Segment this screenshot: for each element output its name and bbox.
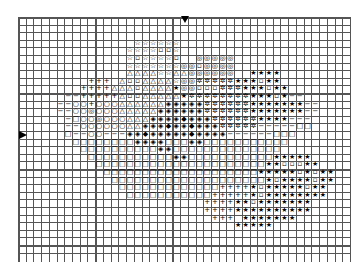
grid-line-horizontal [18, 253, 350, 254]
stitch-cell: □ [134, 192, 142, 200]
stitch-cell: ★ [296, 207, 304, 215]
grid-line-horizontal [18, 40, 350, 41]
stitch-cell: □ [296, 123, 304, 131]
stitch-cell: □ [64, 131, 72, 139]
stitch-cell: □ [196, 192, 204, 200]
grid-line-horizontal [18, 237, 350, 238]
stitch-cell: □ [188, 192, 196, 200]
stitch-cell: □ [304, 123, 312, 131]
grid-line-horizontal [18, 25, 350, 26]
stitch-cell: □ [103, 169, 111, 177]
stitch-cell: □ [142, 192, 150, 200]
stitch-cell: + [203, 207, 211, 215]
stitch-cell: ★ [265, 222, 273, 230]
stitch-cell: ★ [234, 207, 242, 215]
center-column-marker-icon [181, 16, 189, 23]
stitch-cell: □ [80, 146, 88, 154]
stitch-cell: □ [165, 192, 173, 200]
stitch-cell: □ [172, 192, 180, 200]
grid-line-horizontal [18, 55, 350, 56]
stitch-cell: □ [95, 161, 103, 169]
stitch-cell: □ [149, 192, 157, 200]
stitch-cell: ★ [304, 207, 312, 215]
stitch-cell: − [57, 108, 65, 116]
stitch-cell: − [311, 108, 319, 116]
grid-line-horizontal [18, 47, 350, 48]
stitch-cell: □ [180, 192, 188, 200]
stitch-cell: + [219, 215, 227, 223]
stitch-cell: ★ [319, 192, 327, 200]
stitch-cell: ★ [257, 222, 265, 230]
stitch-cell: ★ [242, 222, 250, 230]
stitch-cell: ★ [234, 222, 242, 230]
grid-line-horizontal [18, 215, 350, 216]
stitch-cell: □ [111, 177, 119, 185]
stitch-cell: ★ [311, 192, 319, 200]
stitch-cell: □ [126, 192, 134, 200]
center-row-marker-icon [19, 131, 27, 139]
grid-line-vertical [350, 17, 351, 262]
stitch-cell: ★ [273, 215, 281, 223]
cross-stitch-chart: ☆☆☆☆☆☆☆☆☆☆▫▫☆☆▫☆☆☆☆▫◎◎◎◎◎☆☆☆☆☆☆☆◎◎▫◎◎◎◎△… [18, 17, 350, 253]
stitch-cell: □ [157, 192, 165, 200]
stitch-cell: + [211, 215, 219, 223]
stitch-cell: □ [118, 184, 126, 192]
stitch-cell: ★ [250, 222, 258, 230]
stitch-cell: + [226, 215, 234, 223]
grid-line-horizontal [18, 222, 350, 223]
stitch-cell: ★ [288, 215, 296, 223]
stitch-cell: □ [87, 154, 95, 162]
grid-line-horizontal [18, 245, 350, 247]
grid-line-horizontal [18, 32, 350, 33]
stitch-cell: ★ [327, 177, 335, 185]
grid-line-horizontal [18, 230, 350, 231]
stitch-cell: ★ [280, 215, 288, 223]
stitch-cell: □ [288, 131, 296, 139]
stitch-cell: □ [280, 139, 288, 147]
stitch-cell: □ [72, 139, 80, 147]
